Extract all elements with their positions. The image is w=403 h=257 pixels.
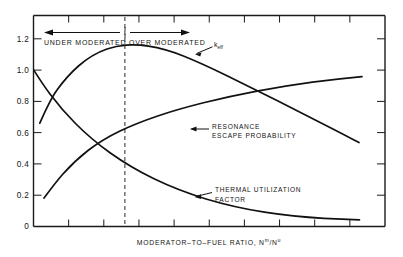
y-tick-label: 1.2	[17, 35, 29, 44]
y-tick-label: 1.0	[17, 66, 29, 75]
resonance-label-line2: ESCAPE PROBABILITY	[212, 132, 296, 139]
x-axis-title-sup-fuel: u	[278, 238, 281, 243]
y-tick-label: 0	[24, 222, 29, 231]
under-moderated-label: UNDER MODERATED	[44, 39, 126, 46]
keff-label-subscript: eff	[218, 45, 224, 50]
y-tick-label: 0.6	[17, 129, 29, 138]
x-axis-title-mid: /N	[269, 239, 277, 246]
x-axis-title: MODERATOR–TO–FUEL RATIO, Nm/Nu	[137, 238, 281, 246]
x-axis-title-main: MODERATOR–TO–FUEL RATIO, N	[137, 239, 265, 246]
y-tick-label: 0.4	[17, 160, 29, 169]
y-tick-label: 0.8	[17, 97, 29, 106]
thermal-label-line1: THERMAL UTILIZATION	[215, 186, 301, 193]
y-tick-label: 0.2	[17, 191, 29, 200]
reactor-moderation-chart: 1.2 1.0 0.8 0.6 0.4 0.2 0 UNDER MODERATE…	[0, 0, 403, 257]
thermal-label-line2: FACTOR	[215, 196, 246, 203]
resonance-label-line1: RESONANCE	[212, 123, 260, 130]
